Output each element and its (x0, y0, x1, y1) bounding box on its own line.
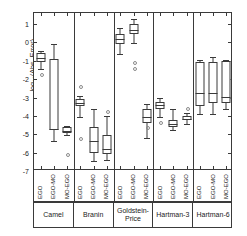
cap-lower (77, 117, 83, 118)
y-axis-tick-label: 0 (25, 39, 29, 46)
cap-upper (51, 44, 57, 45)
outlier-point (186, 107, 190, 111)
box-iqr (89, 127, 98, 153)
whisker-upper (106, 116, 107, 134)
y-axis-tick-label: -7 (23, 168, 29, 175)
cap-lower (64, 135, 70, 136)
group-label-goldstein-price: Goldstein- Price (114, 203, 154, 227)
cap-upper (157, 98, 163, 99)
median-line (102, 149, 111, 150)
cap-lower (197, 114, 203, 115)
series-tick-label: EGO (77, 186, 83, 199)
group-separator (74, 170, 75, 201)
cap-lower (157, 117, 163, 118)
series-tick-label: EGO (196, 186, 202, 199)
series-tick-label: EGO-MO (210, 174, 216, 199)
whisker-lower (213, 103, 214, 114)
y-axis-tick-label: -2 (23, 76, 29, 83)
boxplot-figure: log10(Abs. Error) 10-1-2-3-4-5-6-7 EGOEG… (0, 0, 247, 236)
group-separator (193, 170, 194, 201)
group-label-hartman-3: Hartman-3 (153, 203, 193, 227)
whisker-lower (146, 123, 147, 138)
series-tick-label: EGO (157, 186, 163, 199)
whisker-lower (133, 34, 134, 43)
outlier-point (133, 67, 137, 71)
series-tick-label: EGO (37, 186, 43, 199)
whisker-lower (93, 153, 94, 161)
outlier-point (79, 85, 83, 89)
cap-upper (210, 57, 216, 58)
series-tick-label: EGO-MO (130, 174, 136, 199)
series-tick-label: EGO-MO (170, 174, 176, 199)
median-line (89, 141, 98, 142)
boxplot-hartman-6-mo-ego (219, 13, 234, 169)
median-line (182, 119, 191, 120)
outlier-point (79, 137, 83, 141)
box-iqr (195, 62, 204, 106)
group-label-hartman-6: Hartman-6 (193, 203, 233, 227)
whisker-lower (199, 106, 200, 115)
cap-upper (184, 113, 190, 114)
outlier-point (66, 153, 70, 157)
cap-lower (170, 130, 176, 131)
cap-lower (117, 54, 123, 55)
cap-lower (223, 109, 229, 110)
median-line (156, 105, 165, 106)
series-tick-label: MO-EGO (143, 174, 149, 199)
y-axis-tick-label: -6 (23, 149, 29, 156)
y-axis-tick-label: 1 (25, 21, 29, 28)
median-line (195, 93, 204, 94)
y-axis-tick-label: -3 (23, 94, 29, 101)
cap-upper (170, 109, 176, 110)
plot-area: 10-1-2-3-4-5-6-7 (33, 12, 232, 170)
whisker-upper (93, 109, 94, 127)
whisker-upper (53, 44, 54, 59)
series-tick-label: MO-EGO (223, 174, 229, 199)
series-tick-label: MO-EGO (64, 174, 70, 199)
whisker-lower (80, 106, 81, 116)
median-line (129, 30, 138, 31)
y-axis-tick-label: -5 (23, 131, 29, 138)
median-line (142, 117, 151, 118)
group-label-branin: Branin (74, 203, 114, 227)
y-axis-tick-label: -4 (23, 112, 29, 119)
cap-upper (144, 104, 150, 105)
group-label-camel: Camel (34, 203, 74, 227)
cap-lower (184, 124, 190, 125)
series-tick-label: MO-EGO (183, 174, 189, 199)
cap-lower (210, 114, 216, 115)
box-iqr (209, 62, 218, 102)
median-line (76, 103, 85, 104)
whisker-lower (160, 109, 161, 117)
outlier-point (106, 110, 110, 114)
series-tick-label: EGO-MO (50, 174, 56, 199)
cap-lower (104, 160, 110, 161)
outlier-point (146, 126, 150, 130)
median-line (49, 129, 58, 130)
cap-lower (38, 69, 44, 70)
cap-upper (104, 116, 110, 117)
median-line (209, 93, 218, 94)
series-tick-label: MO-EGO (103, 174, 109, 199)
group-separator (153, 170, 154, 201)
whisker-upper (173, 109, 174, 121)
cap-upper (131, 19, 137, 20)
cap-lower (91, 161, 97, 162)
cap-lower (51, 141, 57, 142)
median-line (222, 97, 231, 98)
cap-upper (38, 51, 44, 52)
cap-upper (77, 96, 83, 97)
whisker-lower (53, 130, 54, 141)
series-label-band: EGOEGO-MOMO-EGOEGOEGO-MOMO-EGOEGOEGO-MOM… (33, 170, 232, 202)
cap-lower (131, 43, 137, 44)
y-axis-tick-label: -1 (23, 57, 29, 64)
box-iqr (49, 59, 58, 129)
whisker-lower (120, 44, 121, 54)
median-line (63, 131, 72, 132)
median-line (116, 39, 125, 40)
outlier-point (40, 73, 44, 77)
whisker-lower (40, 62, 41, 69)
series-tick-label: EGO (117, 186, 123, 199)
group-separator (114, 170, 115, 201)
cap-lower (144, 138, 150, 139)
